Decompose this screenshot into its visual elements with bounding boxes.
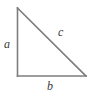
vertical-leg-label: a xyxy=(4,38,10,50)
hypotenuse-label: c xyxy=(58,26,63,38)
hypotenuse-line xyxy=(18,8,87,76)
triangle-drawing xyxy=(0,0,90,98)
horizontal-leg-label: b xyxy=(47,80,53,92)
triangle-figure: a b c xyxy=(0,0,90,98)
